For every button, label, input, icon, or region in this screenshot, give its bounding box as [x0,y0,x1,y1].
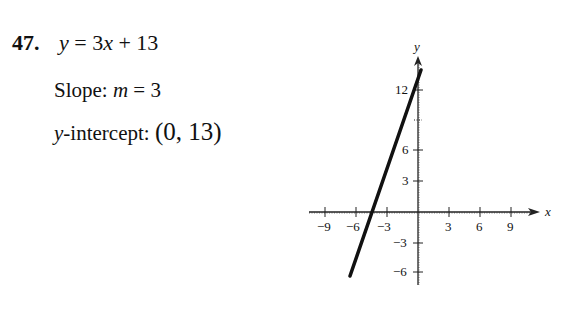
y-axis-label: y [412,39,420,54]
x-tick-label: 9 [507,219,514,234]
x-tick-label: −9 [317,219,331,234]
x-tick-label: 6 [476,219,483,234]
y-tick-label: 3 [402,173,409,188]
y-tick-label: 6 [402,142,409,157]
x-axis-label: x [544,204,551,219]
x-tick-label: −6 [346,219,360,234]
plotted-line [350,70,421,276]
graph: x y −9 −6 −3 3 6 9 12 6 3 −3 −6 [0,0,561,314]
y-tick-label: −6 [393,264,407,279]
x-tick-label: −3 [377,219,391,234]
y-tick-label: 12 [395,82,408,97]
x-tick-label: 3 [445,219,452,234]
y-tick-label: −3 [393,235,407,250]
